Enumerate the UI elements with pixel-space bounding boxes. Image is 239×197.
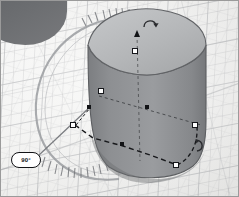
scale-z-square-handle[interactable] xyxy=(132,48,138,54)
rotation-angle-badge[interactable]: 90° xyxy=(11,152,41,168)
rotate-mid-dot[interactable] xyxy=(120,142,124,146)
rotate-end-square-handle[interactable] xyxy=(173,162,179,168)
guide-line-3 xyxy=(178,0,239,197)
scale-x-square-handle[interactable] xyxy=(98,88,104,94)
rotate-pivot-dot[interactable] xyxy=(87,105,91,109)
rotate-cursor-top-icon xyxy=(142,15,160,29)
translate-z-cone-handle[interactable] xyxy=(134,30,140,37)
rotate-cursor-bottom-icon xyxy=(193,138,207,154)
rotate-start-square-handle[interactable] xyxy=(70,122,76,128)
scale-y-square-handle[interactable] xyxy=(192,122,198,128)
cad-viewport-screenshot: 90° xyxy=(0,0,239,197)
gumball-origin-dot[interactable] xyxy=(145,105,149,109)
